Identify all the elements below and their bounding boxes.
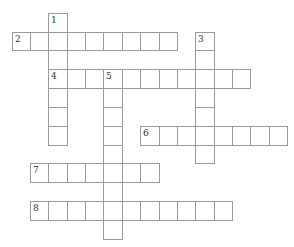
crossword-cell[interactable] [67,32,86,51]
crossword-cell[interactable]: 2 [12,32,31,51]
crossword-cell[interactable]: 6 [140,126,160,146]
crossword-cell[interactable] [195,201,215,221]
crossword-cell[interactable] [48,107,68,127]
crossword-cell[interactable]: 3 [195,32,215,51]
crossword-cell[interactable] [103,88,123,108]
crossword-cell[interactable] [103,201,123,221]
crossword-cell[interactable] [140,32,160,51]
crossword-cell[interactable] [48,50,68,70]
crossword-cell[interactable] [48,32,68,51]
crossword-cell[interactable] [159,32,178,51]
crossword-cell[interactable]: 1 [48,13,68,33]
crossword-cell[interactable] [67,201,86,221]
clue-number: 4 [51,71,57,81]
crossword-cell[interactable] [195,145,215,164]
crossword-cell[interactable] [85,69,104,89]
crossword-cell[interactable]: 5 [103,69,123,89]
crossword-cell[interactable] [103,145,123,164]
clue-number: 1 [51,15,57,25]
crossword-cell[interactable] [103,126,123,146]
crossword-cell[interactable] [48,201,68,221]
crossword-cell[interactable]: 8 [30,201,49,221]
crossword-cell[interactable] [67,163,86,183]
crossword-cell[interactable] [159,126,178,146]
crossword-cell[interactable] [195,50,215,70]
crossword-cell[interactable]: 7 [30,163,49,183]
crossword-cell[interactable] [250,126,270,146]
clue-number: 8 [33,203,39,213]
crossword-cell[interactable] [85,201,104,221]
crossword-cell[interactable] [214,69,233,89]
crossword-cell[interactable] [30,32,49,51]
crossword-cell[interactable] [177,201,196,221]
crossword-grid: 14235678 [0,0,294,247]
crossword-cell[interactable] [177,69,196,89]
crossword-cell[interactable] [103,220,123,240]
crossword-cell[interactable] [269,126,288,146]
crossword-cell[interactable] [195,107,215,127]
crossword-cell[interactable] [103,32,123,51]
crossword-cell[interactable] [48,88,68,108]
crossword-cell[interactable] [159,69,178,89]
crossword-cell[interactable] [140,163,160,183]
clue-number: 5 [106,71,112,81]
clue-number: 6 [143,128,149,138]
crossword-cell[interactable] [214,126,233,146]
crossword-cell[interactable] [85,32,104,51]
crossword-cell[interactable] [122,201,141,221]
crossword-cell[interactable] [103,182,123,202]
crossword-cell[interactable] [85,163,104,183]
crossword-cell[interactable] [195,69,215,89]
crossword-cell[interactable] [214,201,233,221]
crossword-cell[interactable] [122,32,141,51]
crossword-cell[interactable] [159,201,178,221]
crossword-cell[interactable] [103,107,123,127]
crossword-cell[interactable] [122,163,141,183]
crossword-cell[interactable] [232,126,251,146]
crossword-cell[interactable] [48,126,68,146]
crossword-cell[interactable] [232,69,251,89]
crossword-cell[interactable] [48,163,68,183]
clue-number: 3 [198,34,204,44]
crossword-cell[interactable] [195,88,215,108]
crossword-cell[interactable] [122,69,141,89]
crossword-cell[interactable] [140,69,160,89]
crossword-cell[interactable] [177,126,196,146]
crossword-cell[interactable] [67,69,86,89]
crossword-cell[interactable] [140,201,160,221]
clue-number: 2 [15,34,21,44]
crossword-cell[interactable]: 4 [48,69,68,89]
crossword-cell[interactable] [103,163,123,183]
crossword-cell[interactable] [195,126,215,146]
clue-number: 7 [33,165,39,175]
